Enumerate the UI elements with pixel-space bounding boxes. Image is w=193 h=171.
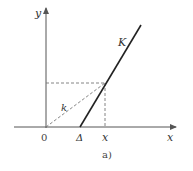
delta-label: Δ: [75, 132, 83, 143]
figure-caption: a): [102, 149, 112, 160]
main-line-label: K: [117, 36, 127, 49]
diagram-canvas: y x 0 Δ x K k a): [0, 0, 193, 171]
dashed-line-k: [46, 83, 105, 127]
main-line-K: [80, 25, 141, 127]
dashed-line-label: k: [61, 102, 67, 113]
x-axis-label: x: [167, 131, 174, 144]
y-axis-label: y: [34, 7, 42, 20]
x-point-label: x: [102, 131, 109, 144]
origin-label: 0: [41, 132, 47, 143]
